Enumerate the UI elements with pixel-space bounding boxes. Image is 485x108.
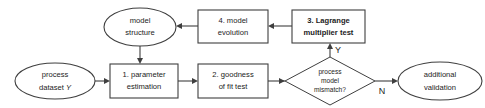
edge-label-yes: Y	[335, 45, 341, 55]
arrowhead-icon	[392, 78, 398, 84]
edge-structure-to-parameter	[137, 46, 143, 64]
edge-parameter-to-goodness	[178, 78, 198, 84]
node-label-line2: of fit test	[219, 82, 249, 91]
edge-goodness-to-mismatch	[268, 78, 285, 84]
dataset-word: dataset	[39, 83, 66, 92]
node-label-line1: process	[42, 70, 69, 79]
node-label-line2: evolution	[218, 28, 248, 37]
node-label-line1: model	[130, 16, 151, 25]
node-additional-validation[interactable]: additional validation	[398, 62, 482, 100]
node-model-evolution[interactable]: 4. model evolution	[198, 10, 268, 43]
edge-label-no: N	[379, 86, 386, 96]
rectangle-shape	[198, 10, 268, 43]
node-process-model-mismatch[interactable]: process model mismatch?	[285, 57, 375, 105]
node-label-line2: validation	[424, 83, 456, 92]
node-lagrange-multiplier-test[interactable]: 3. Lagrange multiplier test	[292, 10, 365, 43]
edge-lagrange-to-evolution	[268, 23, 292, 29]
node-label-line2: structure	[125, 28, 155, 37]
node-label-line1: 1. parameter	[122, 70, 166, 79]
arrowhead-icon	[327, 43, 333, 49]
node-process-dataset[interactable]: process dataset Y	[15, 63, 95, 99]
node-label-line1: process	[318, 68, 342, 76]
ellipse-shape	[398, 62, 482, 100]
arrowhead-icon	[192, 78, 198, 84]
edge-mismatch-to-validation	[375, 78, 398, 84]
rectangle-shape	[292, 10, 365, 43]
edge-dataset-to-parameter	[95, 78, 110, 84]
node-label-line2: model	[321, 77, 339, 84]
node-parameter-estimation[interactable]: 1. parameter estimation	[110, 64, 178, 98]
flowchart-diagram: model structure 4. model evolution 3. La…	[0, 0, 485, 108]
node-label-line3: mismatch?	[314, 86, 346, 93]
ellipse-shape	[15, 63, 95, 99]
node-model-structure[interactable]: model structure	[104, 8, 176, 46]
edge-mismatch-to-lagrange	[327, 43, 333, 57]
node-label-line2: multiplier test	[304, 28, 354, 37]
arrowhead-icon	[104, 78, 110, 84]
node-label-line2: dataset Y	[39, 83, 72, 92]
arrowhead-icon	[176, 23, 182, 29]
arrowhead-icon	[137, 58, 143, 64]
flowchart-canvas: model structure 4. model evolution 3. La…	[0, 0, 485, 108]
node-label-line1: 3. Lagrange	[307, 16, 350, 25]
node-label-line1: 2. goodness	[212, 70, 254, 79]
ellipse-shape	[104, 8, 176, 46]
node-label-line1: 4. model	[218, 16, 247, 25]
node-goodness-of-fit-test[interactable]: 2. goodness of fit test	[198, 64, 268, 98]
arrowhead-icon	[268, 23, 274, 29]
edge-evolution-to-structure	[176, 23, 198, 29]
node-label-line2: estimation	[127, 82, 162, 91]
node-label-line1: additional	[424, 70, 457, 79]
